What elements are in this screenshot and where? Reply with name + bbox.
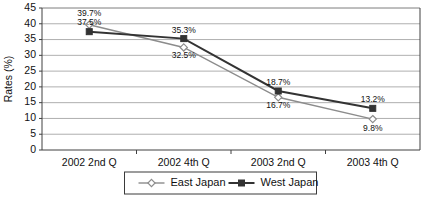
- data-point-label: 35.3%: [172, 25, 197, 35]
- series-line-west-japan: [89, 32, 373, 109]
- y-tick-label: 20: [24, 80, 36, 92]
- x-tick-label: 2002 4th Q: [158, 156, 210, 168]
- data-point-label: 18.7%: [266, 77, 291, 87]
- y-tick-label: 40: [24, 17, 36, 29]
- y-tick-label: 45: [24, 1, 36, 13]
- legend-label-2: West Japan: [261, 176, 319, 188]
- data-point-marker: [181, 36, 187, 42]
- data-point-label: 9.8%: [363, 123, 383, 133]
- y-tick-label: 25: [24, 64, 36, 76]
- data-point-marker: [275, 88, 281, 94]
- x-tick-label: 2002 2nd Q: [62, 156, 117, 168]
- data-point-label: 37.5%: [77, 17, 102, 27]
- data-point-label: 16.7%: [266, 100, 291, 110]
- data-point-marker: [86, 29, 92, 35]
- data-point-marker: [369, 115, 376, 122]
- x-tick-label: 2003 4th Q: [347, 156, 399, 168]
- y-tick-label: 30: [24, 48, 36, 60]
- y-tick-label: 10: [24, 111, 36, 123]
- chart-canvas: 0510152025303540452002 2nd Q2002 4th Q20…: [0, 0, 441, 201]
- x-tick-label: 2003 2nd Q: [251, 156, 306, 168]
- line-chart: 0510152025303540452002 2nd Q2002 4th Q20…: [0, 0, 441, 201]
- y-tick-label: 15: [24, 95, 36, 107]
- legend-label-1: East Japan: [171, 176, 226, 188]
- y-axis-title: Rates (%): [2, 56, 14, 103]
- data-point-label: 32.5%: [172, 50, 197, 60]
- y-tick-label: 0: [30, 143, 36, 155]
- series-1: [89, 25, 373, 119]
- y-tick-label: 5: [30, 127, 36, 139]
- legend-square-marker: [239, 180, 245, 186]
- y-tick-label: 35: [24, 32, 36, 44]
- data-point-label: 13.2%: [361, 94, 386, 104]
- data-point-marker: [370, 105, 376, 111]
- series-line-east-japan: [89, 25, 373, 119]
- series-2: [89, 32, 373, 109]
